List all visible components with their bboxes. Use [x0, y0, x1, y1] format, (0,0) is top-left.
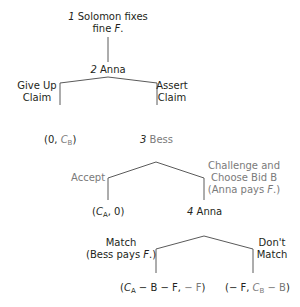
edge-label-match: Match (Bess pays F.)	[86, 237, 156, 261]
edge-anna-split	[60, 77, 157, 105]
node-1-solomon: 1 Solomon fixes fine F.	[58, 11, 158, 35]
node-2-anna: 2 Anna	[78, 64, 138, 76]
payoff-dont-match: (− F, CB − B)	[225, 282, 290, 294]
edge-label-dont-match: Don't Match	[252, 237, 292, 261]
payoff-accept: (CA, 0)	[92, 206, 124, 218]
payoff-give-up: (0, CB)	[44, 134, 76, 146]
payoff-match: (CA − B − F, − F)	[120, 282, 205, 294]
node-3-bess: 3 Bess	[140, 134, 173, 146]
edge-label-give-up-claim: Give Up Claim	[12, 80, 62, 104]
edge-label-challenge: Challenge and Choose Bid B (Anna pays F.…	[204, 160, 284, 196]
edge-label-assert-claim: Assert Claim	[152, 80, 192, 104]
edge-bess-split	[108, 162, 204, 200]
edge-label-accept: Accept	[71, 172, 105, 184]
node-4-anna: 4 Anna	[187, 206, 222, 218]
edge-anna2-split	[156, 236, 253, 273]
